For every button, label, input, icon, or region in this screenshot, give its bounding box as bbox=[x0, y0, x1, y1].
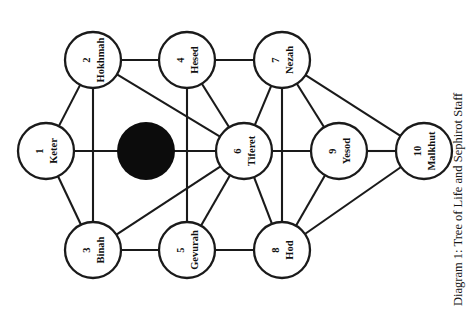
node-number-tiferet: 6 bbox=[232, 148, 243, 153]
node-label-hokhmah: Hokhmah bbox=[95, 37, 106, 82]
node-circle-yesod[interactable] bbox=[311, 123, 367, 179]
node-number-gevurah: 5 bbox=[175, 247, 186, 252]
node-tiferet[interactable]: 6Tiferet bbox=[216, 123, 272, 179]
node-label-malkhut: Malkhut bbox=[426, 131, 437, 171]
tree-of-life-diagram: 1Keter2Hokhmah3Binah4Hesed5Gevurah6Tifer… bbox=[0, 0, 472, 314]
node-binah[interactable]: 3Binah bbox=[65, 222, 121, 278]
node-label-binah: Binah bbox=[95, 236, 106, 263]
node-label-hesed: Hesed bbox=[189, 46, 200, 74]
node-circle-hokhmah[interactable] bbox=[65, 32, 121, 88]
edge-hesed-tiferet bbox=[202, 84, 229, 128]
edge-hod-yesod bbox=[296, 175, 325, 225]
edge-binah-tiferet bbox=[116, 166, 220, 234]
occluder-layer bbox=[117, 122, 175, 180]
node-label-hod: Hod bbox=[284, 240, 295, 259]
node-number-hesed: 4 bbox=[175, 57, 186, 63]
node-label-tiferet: Tiferet bbox=[246, 135, 257, 166]
node-label-yesod: Yesod bbox=[341, 138, 352, 164]
edge-tiferet-nezah bbox=[255, 86, 271, 125]
edge-hod-malkhut bbox=[305, 167, 401, 234]
node-number-nezah: 7 bbox=[270, 57, 281, 62]
node-circle-gevurah[interactable] bbox=[159, 222, 215, 278]
node-hesed[interactable]: 4Hesed bbox=[159, 32, 215, 88]
node-circle-keter[interactable] bbox=[18, 123, 74, 179]
node-circle-nezah[interactable] bbox=[254, 32, 310, 88]
caption-label: Diagram 1: Tree of Life and Sephirot Sta… bbox=[451, 92, 465, 306]
edge-tiferet-hod bbox=[254, 177, 272, 224]
figure-caption: Diagram 1: Tree of Life and Sephirot Sta… bbox=[451, 92, 465, 306]
edge-keter-binah bbox=[58, 176, 81, 224]
node-circle-malkhut[interactable] bbox=[396, 123, 452, 179]
node-hod[interactable]: 8Hod bbox=[254, 222, 310, 278]
node-number-binah: 3 bbox=[81, 247, 92, 252]
node-label-gevurah: Gevurah bbox=[189, 230, 200, 270]
node-keter[interactable]: 1Keter bbox=[18, 123, 74, 179]
edge-keter-hokhmah bbox=[59, 85, 80, 126]
node-circle-hod[interactable] bbox=[254, 222, 310, 278]
node-circle-binah[interactable] bbox=[65, 222, 121, 278]
node-number-hod: 8 bbox=[270, 247, 281, 252]
node-number-keter: 1 bbox=[34, 148, 45, 153]
node-malkhut[interactable]: 10Malkhut bbox=[396, 123, 452, 179]
node-number-yesod: 9 bbox=[327, 148, 338, 153]
node-label-keter: Keter bbox=[48, 138, 59, 164]
figure-root: 1Keter2Hokhmah3Binah4Hesed5Gevurah6Tifer… bbox=[0, 0, 472, 314]
node-number-malkhut: 10 bbox=[412, 146, 423, 157]
edge-nezah-yesod bbox=[297, 84, 324, 128]
node-label-nezah: Nezah bbox=[284, 46, 295, 74]
node-nezah[interactable]: 7Nezah bbox=[254, 32, 310, 88]
node-gevurah[interactable]: 5Gevurah bbox=[159, 222, 215, 278]
node-number-hokhmah: 2 bbox=[81, 57, 92, 62]
edge-gevurah-tiferet bbox=[201, 175, 230, 225]
nodes-layer: 1Keter2Hokhmah3Binah4Hesed5Gevurah6Tifer… bbox=[18, 32, 452, 278]
node-circle-tiferet[interactable] bbox=[216, 123, 272, 179]
node-hokhmah[interactable]: 2Hokhmah bbox=[65, 32, 121, 88]
black-disk-icon bbox=[117, 122, 175, 180]
node-circle-hesed[interactable] bbox=[159, 32, 215, 88]
node-yesod[interactable]: 9Yesod bbox=[311, 123, 367, 179]
